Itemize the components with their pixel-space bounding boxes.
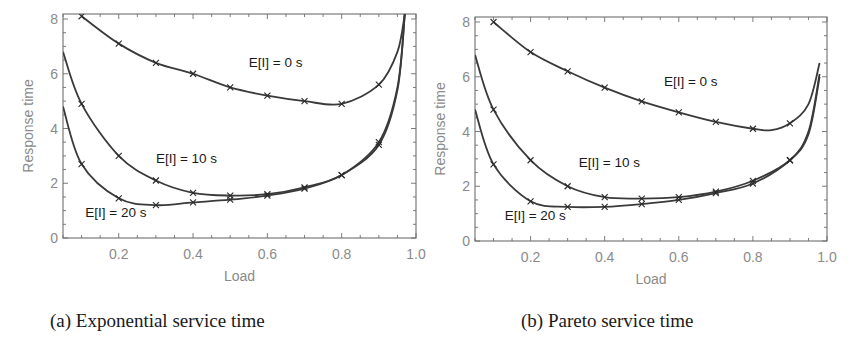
svg-text:0.4: 0.4 <box>183 246 203 262</box>
x-marker-icon <box>116 41 122 47</box>
svg-text:8: 8 <box>50 11 58 27</box>
series-line <box>82 14 405 105</box>
y-axis-label: Response time <box>20 79 36 173</box>
x-marker-icon <box>491 161 497 167</box>
x-marker-icon <box>116 153 122 159</box>
chart-panel-b: 0.20.40.60.81.002468LoadResponse timeE[I… <box>433 0 866 300</box>
svg-text:6: 6 <box>50 66 58 82</box>
plot-frame <box>63 14 416 238</box>
x-marker-icon <box>787 157 793 163</box>
svg-text:4: 4 <box>50 121 58 137</box>
caption-a: (a) Exponential service time <box>50 310 265 332</box>
x-marker-icon <box>528 157 534 163</box>
x-tick-labels: 0.20.40.60.81.0 <box>109 246 426 262</box>
svg-text:0.6: 0.6 <box>669 249 689 265</box>
svg-text:2: 2 <box>50 175 58 191</box>
x-marker-icon <box>339 172 345 178</box>
x-marker-icon <box>79 101 85 107</box>
series-label: E[I] = 20 s <box>505 208 566 223</box>
chart-exponential: 0.20.40.60.81.002468LoadResponse timeE[I… <box>0 0 433 300</box>
series-line <box>63 14 405 206</box>
series-label: E[I] = 20 s <box>85 205 146 220</box>
x-axis-label: Load <box>635 271 666 287</box>
svg-text:1.0: 1.0 <box>406 246 426 262</box>
x-marker-icon <box>565 68 571 74</box>
svg-text:1.0: 1.0 <box>817 249 837 265</box>
x-marker-icon <box>153 178 159 184</box>
svg-text:0.8: 0.8 <box>743 249 763 265</box>
svg-text:2: 2 <box>462 178 470 194</box>
svg-text:8: 8 <box>462 14 470 30</box>
series-label: E[I] = 0 s <box>664 74 718 89</box>
svg-text:0.6: 0.6 <box>258 246 278 262</box>
svg-text:0.4: 0.4 <box>595 249 615 265</box>
x-tick-labels: 0.20.40.60.81.0 <box>521 249 837 265</box>
svg-text:6: 6 <box>462 69 470 85</box>
x-axis-label: Load <box>224 268 255 284</box>
x-marker-icon <box>565 183 571 189</box>
x-marker-icon <box>528 49 534 55</box>
svg-text:0.2: 0.2 <box>109 246 129 262</box>
series-label: E[I] = 10 s <box>156 151 217 166</box>
x-marker-icon <box>116 195 122 201</box>
series-line <box>475 55 820 199</box>
y-tick-labels: 02468 <box>50 11 58 246</box>
svg-text:4: 4 <box>462 124 470 140</box>
caption-b: (b) Pareto service time <box>521 310 694 332</box>
y-tick-labels: 02468 <box>462 14 470 249</box>
x-marker-icon <box>491 107 497 113</box>
x-marker-icon <box>376 82 382 88</box>
svg-text:0.8: 0.8 <box>332 246 352 262</box>
series-label: E[I] = 0 s <box>249 55 303 70</box>
chart-panel-a: 0.20.40.60.81.002468LoadResponse timeE[I… <box>0 0 433 300</box>
y-axis-label: Response time <box>433 82 448 176</box>
svg-text:0: 0 <box>462 233 470 249</box>
x-marker-icon <box>79 161 85 167</box>
axis-ticks <box>63 14 416 238</box>
x-marker-icon <box>528 198 534 204</box>
svg-text:0: 0 <box>50 230 58 246</box>
series-line <box>494 22 820 130</box>
series-line <box>475 77 820 208</box>
series-label: E[I] = 10 s <box>579 155 640 170</box>
chart-pareto: 0.20.40.60.81.002468LoadResponse timeE[I… <box>433 0 866 300</box>
svg-text:0.2: 0.2 <box>521 249 541 265</box>
x-marker-icon <box>787 120 793 126</box>
